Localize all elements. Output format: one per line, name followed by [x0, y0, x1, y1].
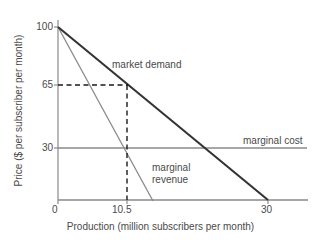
y-tick-label-30: 30 — [42, 142, 53, 153]
y-axis-title: Price ($ per subscriber per month) — [13, 16, 24, 206]
marginal-revenue-label-line2: revenue — [152, 174, 188, 185]
x-axis-title: Production (million subscribers per mont… — [0, 221, 321, 232]
marginal-cost-label: marginal cost — [243, 135, 302, 146]
chart-plot-area — [0, 0, 321, 242]
chart-figure: 100 65 30 0 10.5 30 market demand margin… — [0, 0, 321, 242]
marginal-revenue-line — [58, 27, 153, 201]
market-demand-label: market demand — [112, 59, 181, 70]
x-tick-label-10-5: 10.5 — [112, 204, 131, 215]
marginal-revenue-label: marginalrevenue — [152, 162, 212, 186]
marginal-revenue-label-line1: marginal — [152, 162, 190, 173]
x-tick-label-30: 30 — [261, 204, 272, 215]
y-tick-label-100: 100 — [36, 21, 53, 32]
y-tick-label-65: 65 — [42, 79, 53, 90]
x-tick-label-0: 0 — [52, 204, 58, 215]
